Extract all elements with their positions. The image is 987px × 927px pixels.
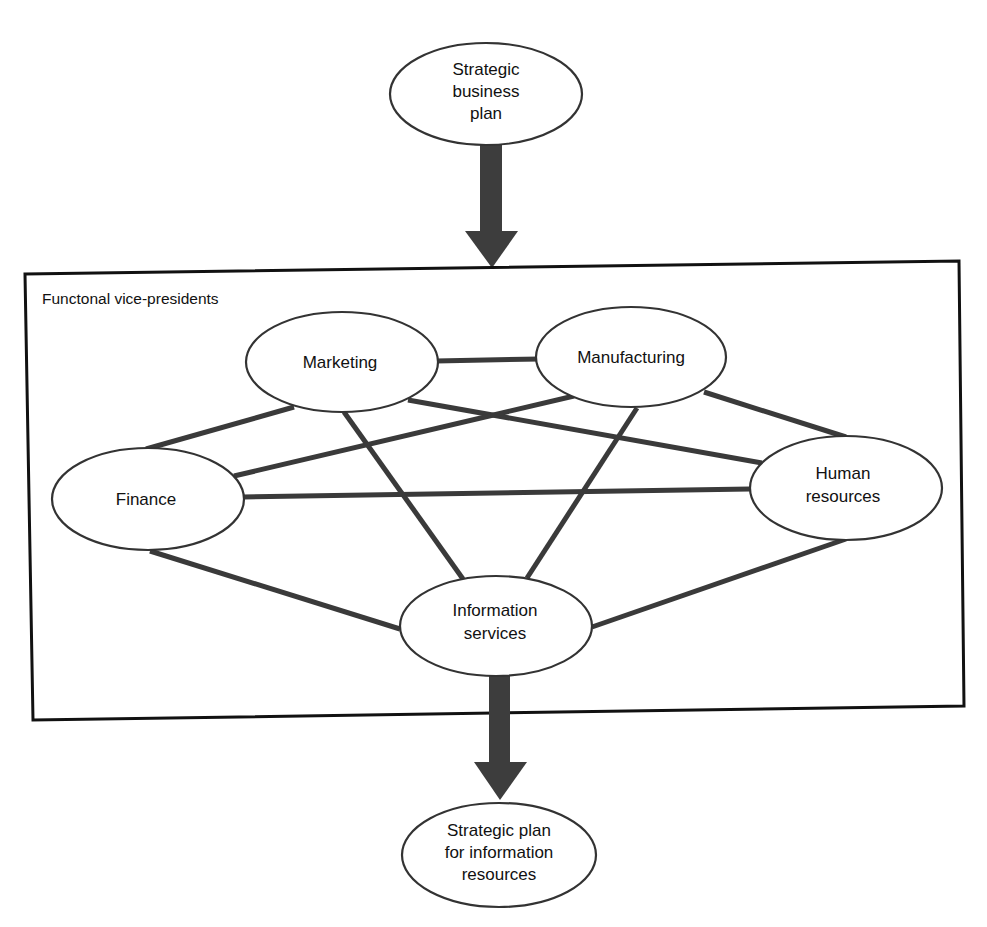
node-label-line: for information <box>445 843 554 862</box>
frame-label: Functonal vice-presidents <box>42 290 219 307</box>
edge-manufacturing-human-resources <box>704 392 846 437</box>
node-label-line: Strategic <box>452 60 520 79</box>
flow-arrow-bottom <box>474 676 527 800</box>
node-strategic-business-plan: Strategic business plan <box>390 43 582 145</box>
node-label-line: Manufacturing <box>577 348 685 367</box>
edge-human-resources-information-services <box>592 539 846 627</box>
node-label-line: Human <box>816 464 871 483</box>
edge-marketing-manufacturing <box>436 359 540 361</box>
edge-marketing-human-resources <box>408 400 762 463</box>
node-label-line: services <box>464 624 526 643</box>
edge-marketing-finance <box>146 407 294 449</box>
node-label-line: Information <box>452 601 537 620</box>
node-label-line: business <box>452 82 519 101</box>
edge-finance-information-services <box>150 551 400 629</box>
edge-finance-human-resources <box>243 489 750 497</box>
node-information-services: Information services <box>400 576 592 676</box>
node-strategic-plan-information-resources: Strategic plan for information resources <box>402 803 596 907</box>
node-marketing: Marketing <box>246 312 438 412</box>
node-label-line: plan <box>470 104 502 123</box>
diagram-canvas: Functonal vice-presidents Strategic busi… <box>0 0 987 927</box>
node-label-line: Marketing <box>303 353 378 372</box>
node-manufacturing: Manufacturing <box>536 307 726 407</box>
node-label-line: resources <box>806 487 881 506</box>
node-label-line: Strategic plan <box>447 821 551 840</box>
node-human-resources: Human resources <box>750 436 942 540</box>
node-label-line: Finance <box>116 490 176 509</box>
node-label-line: resources <box>462 865 537 884</box>
flow-arrow-top <box>465 144 518 268</box>
node-finance: Finance <box>52 448 244 550</box>
